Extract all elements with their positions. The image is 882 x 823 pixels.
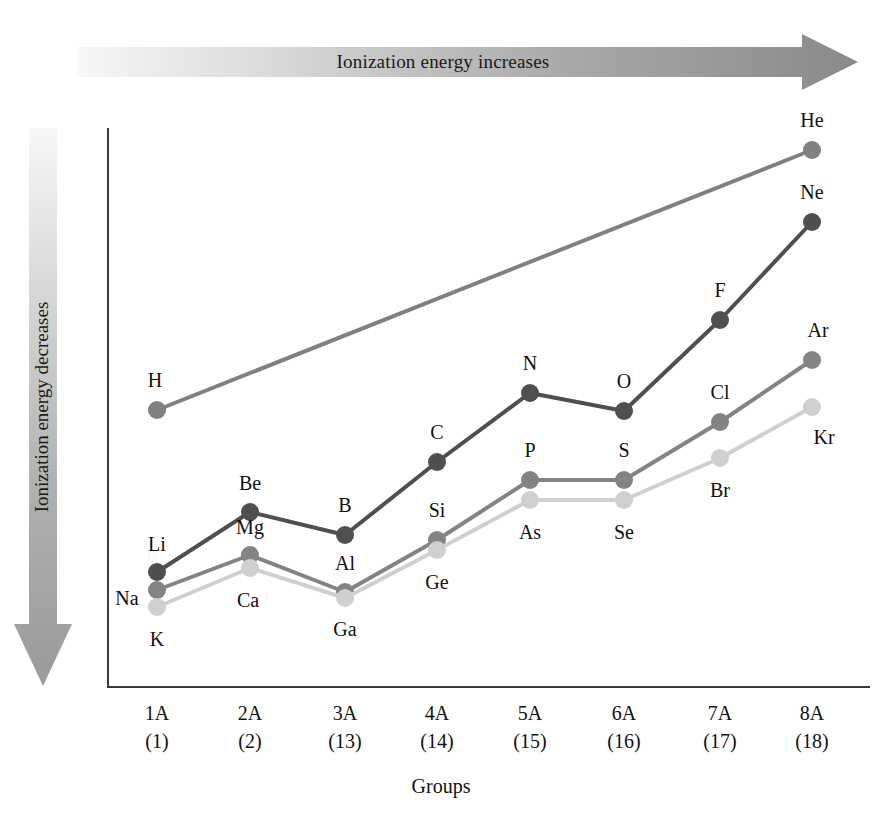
point-label-br: Br — [710, 479, 730, 502]
data-point-ga[interactable] — [336, 589, 354, 607]
x-tick-3a: 3A(13) — [300, 700, 390, 755]
point-label-si: Si — [429, 499, 446, 522]
x-tick-4a: 4A(14) — [392, 700, 482, 755]
point-label-h: H — [148, 369, 162, 392]
point-label-ga: Ga — [333, 618, 356, 641]
x-axis-title: Groups — [0, 775, 882, 798]
x-tick-5a: 5A(15) — [485, 700, 575, 755]
x-tick-group: 5A — [485, 700, 575, 728]
data-point-o[interactable] — [615, 402, 633, 420]
top-arrow-label: Ionization energy increases — [78, 34, 808, 90]
data-point-cl[interactable] — [711, 413, 729, 431]
data-point-n[interactable] — [521, 384, 539, 402]
data-point-k[interactable] — [148, 598, 166, 616]
x-tick-number: (2) — [205, 728, 295, 756]
data-point-ne[interactable] — [803, 213, 821, 231]
point-label-as: As — [519, 521, 541, 544]
point-label-se: Se — [614, 521, 634, 544]
x-tick-8a: 8A(18) — [767, 700, 857, 755]
data-point-ge[interactable] — [428, 541, 446, 559]
point-label-b: B — [338, 494, 351, 517]
x-tick-number: (15) — [485, 728, 575, 756]
data-point-as[interactable] — [521, 491, 539, 509]
point-label-c: C — [430, 421, 443, 444]
point-label-o: O — [617, 370, 631, 393]
x-tick-group: 2A — [205, 700, 295, 728]
point-label-ne: Ne — [800, 181, 823, 204]
x-tick-7a: 7A(17) — [675, 700, 765, 755]
data-point-f[interactable] — [711, 311, 729, 329]
point-label-li: Li — [148, 533, 166, 556]
plot-area: HHeLiBeBCNOFNeNaMgAlSiPSClArKCaGaGeAsSeB… — [107, 128, 870, 688]
point-label-ar: Ar — [807, 319, 828, 342]
data-point-kr[interactable] — [803, 398, 821, 416]
x-tick-number: (13) — [300, 728, 390, 756]
x-tick-group: 4A — [392, 700, 482, 728]
point-label-k: K — [150, 628, 164, 651]
figure-root: Ionization energy increases Ionization e… — [0, 0, 882, 823]
x-tick-group: 1A — [112, 700, 202, 728]
point-label-f: F — [714, 279, 725, 302]
point-label-al: Al — [335, 552, 355, 575]
data-point-p[interactable] — [521, 471, 539, 489]
x-tick-number: (1) — [112, 728, 202, 756]
left-arrow-label: Ionization energy decreases — [14, 167, 70, 647]
data-point-li[interactable] — [148, 563, 166, 581]
series-layer — [107, 128, 870, 688]
point-label-he: He — [800, 109, 823, 132]
x-tick-group: 7A — [675, 700, 765, 728]
x-tick-number: (17) — [675, 728, 765, 756]
x-tick-group: 3A — [300, 700, 390, 728]
point-label-n: N — [523, 352, 537, 375]
x-tick-group: 8A — [767, 700, 857, 728]
point-label-p: P — [524, 439, 535, 462]
data-point-s[interactable] — [615, 471, 633, 489]
x-tick-1a: 1A(1) — [112, 700, 202, 755]
x-tick-number: (18) — [767, 728, 857, 756]
data-point-br[interactable] — [711, 449, 729, 467]
x-tick-group: 6A — [579, 700, 669, 728]
point-label-ca: Ca — [237, 589, 259, 612]
top-trend-arrow: Ionization energy increases — [78, 34, 858, 90]
point-label-kr: Kr — [813, 426, 834, 449]
point-label-cl: Cl — [711, 381, 730, 404]
x-tick-number: (14) — [392, 728, 482, 756]
data-point-ca[interactable] — [241, 559, 259, 577]
data-point-b[interactable] — [336, 526, 354, 544]
data-point-h[interactable] — [148, 401, 166, 419]
data-point-c[interactable] — [428, 453, 446, 471]
data-point-he[interactable] — [803, 141, 821, 159]
left-trend-arrow: Ionization energy decreases — [14, 128, 72, 686]
data-point-na[interactable] — [148, 581, 166, 599]
point-label-na: Na — [115, 587, 138, 610]
data-point-ar[interactable] — [803, 351, 821, 369]
point-label-s: S — [618, 439, 629, 462]
point-label-be: Be — [239, 472, 261, 495]
x-tick-2a: 2A(2) — [205, 700, 295, 755]
point-label-mg: Mg — [236, 516, 264, 539]
x-tick-number: (16) — [579, 728, 669, 756]
point-label-ge: Ge — [425, 571, 448, 594]
x-tick-6a: 6A(16) — [579, 700, 669, 755]
data-point-se[interactable] — [615, 491, 633, 509]
